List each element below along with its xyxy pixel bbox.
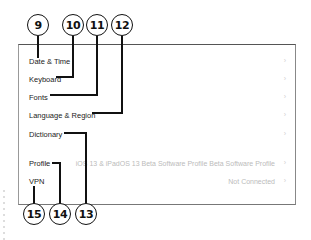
callout-10: 10 bbox=[62, 14, 84, 36]
leader-line-15 bbox=[33, 186, 35, 204]
leader-line-10-h bbox=[56, 76, 74, 78]
leader-line-11 bbox=[96, 36, 98, 96]
chevron-right-icon: › bbox=[284, 130, 286, 137]
row-language-region[interactable]: Language & Region › bbox=[19, 109, 295, 125]
chevron-right-icon: › bbox=[284, 111, 286, 118]
callout-9: 9 bbox=[27, 14, 49, 36]
row-dictionary[interactable]: Dictionary › bbox=[19, 128, 295, 144]
leader-line-12-h bbox=[92, 112, 123, 114]
row-label: Fonts bbox=[29, 93, 48, 102]
callout-15: 15 bbox=[23, 203, 45, 225]
chevron-right-icon: › bbox=[284, 57, 286, 64]
chevron-right-icon: › bbox=[284, 75, 286, 82]
leader-line-11-h bbox=[50, 94, 98, 96]
row-label: Language & Region bbox=[29, 111, 95, 120]
chevron-right-icon: › bbox=[284, 177, 286, 184]
row-label: Date & Time bbox=[29, 57, 70, 66]
margin-decoration bbox=[3, 190, 5, 240]
row-date-time[interactable]: Date & Time › bbox=[19, 55, 295, 71]
callout-14: 14 bbox=[49, 203, 71, 225]
leader-line-12 bbox=[121, 36, 123, 114]
leader-line-9 bbox=[37, 36, 39, 58]
leader-line-13 bbox=[85, 132, 87, 204]
chevron-right-icon: › bbox=[284, 93, 286, 100]
chevron-right-icon: › bbox=[284, 159, 286, 166]
row-value: iOS 13 & iPadOS 13 Beta Software Profile… bbox=[76, 160, 275, 167]
leader-line-10 bbox=[72, 36, 74, 78]
row-label: VPN bbox=[29, 177, 44, 186]
callout-11: 11 bbox=[86, 14, 108, 36]
leader-line-13-h bbox=[64, 132, 87, 134]
callout-13: 13 bbox=[75, 203, 97, 225]
row-label: Profile bbox=[29, 159, 50, 168]
row-value: Not Connected bbox=[228, 178, 275, 185]
callout-12: 12 bbox=[111, 14, 133, 36]
leader-line-14 bbox=[59, 162, 61, 204]
row-label: Dictionary bbox=[29, 130, 62, 139]
